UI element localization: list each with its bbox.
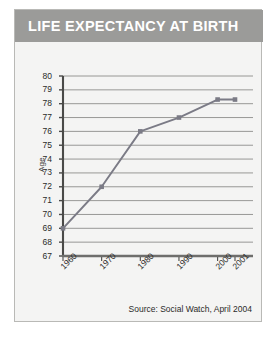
y-axis-tick-label: 74 [32, 155, 52, 164]
gridlines [63, 76, 253, 256]
data-point-marker [177, 115, 182, 120]
y-axis-tick-label: 70 [32, 210, 52, 219]
line-chart-svg [15, 42, 263, 323]
data-point-marker [61, 226, 66, 231]
y-axis-tick-label: 73 [32, 168, 52, 177]
data-point-marker [233, 97, 238, 102]
screenshot-root: LIFE EXPECTANCY AT BIRTH Age 80797877767… [0, 0, 278, 345]
y-axis-tick-label: 79 [32, 85, 52, 94]
y-axis-tick-label: 68 [32, 238, 52, 247]
y-axis-tick-label: 78 [32, 99, 52, 108]
series-line-1960-2001 [63, 100, 235, 229]
source-caption: Source: Social Watch, April 2004 [129, 304, 252, 314]
y-axis-tick-label: 76 [32, 127, 52, 136]
y-axis-tick-label: 67 [32, 252, 52, 261]
page-title: LIFE EXPECTANCY AT BIRTH [28, 18, 238, 34]
chart-card: LIFE EXPECTANCY AT BIRTH Age 80797877767… [14, 9, 262, 322]
y-axis-tick-label: 69 [32, 224, 52, 233]
data-point-marker [215, 97, 220, 102]
data-point-marker [138, 129, 143, 134]
plot-area: Age 8079787776757473727170696867 1960197… [15, 42, 263, 323]
y-axis-tick-label: 80 [32, 72, 52, 81]
y-axis-tick-label: 72 [32, 182, 52, 191]
y-axis-tick-label: 75 [32, 141, 52, 150]
chart-title-band: LIFE EXPECTANCY AT BIRTH [15, 10, 263, 42]
data-point-marker [99, 184, 104, 189]
y-axis-tick-label: 77 [32, 113, 52, 122]
y-axis-tick-label: 71 [32, 196, 52, 205]
